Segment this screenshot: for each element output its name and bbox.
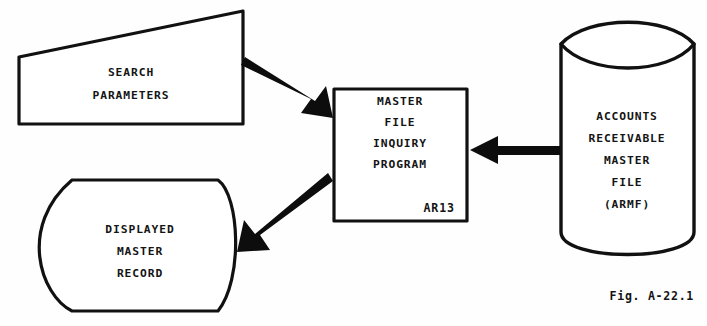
master-file-label-line2: RECEIVABLE xyxy=(588,132,665,145)
search-parameters-label-line1: SEARCH xyxy=(108,66,154,79)
figure-caption: Fig. A-22.1 xyxy=(610,289,694,303)
displayed-record-label-line1: DISPLAYED xyxy=(105,223,174,236)
node-inquiry-program[interactable]: MASTER FILE INQUIRY PROGRAM AR13 xyxy=(334,89,467,221)
flowchart-canvas: SEARCH PARAMETERS MASTER FILE INQUIRY PR… xyxy=(0,0,707,326)
node-master-file[interactable]: ACCOUNTS RECEIVABLE MASTER FILE (ARMF) xyxy=(561,22,694,254)
displayed-record-label-line2: MASTER xyxy=(117,245,163,258)
inquiry-program-label-line3: INQUIRY xyxy=(373,137,427,150)
masterfile-to-program-arrow xyxy=(470,136,560,164)
displayed-record-label-line3: RECORD xyxy=(117,267,163,280)
master-file-label-line1: ACCOUNTS xyxy=(596,110,658,123)
master-file-label-line5: (ARMF) xyxy=(604,198,650,211)
master-file-label-line4: FILE xyxy=(612,176,643,189)
search-to-program-arrow xyxy=(241,57,333,118)
master-file-label-line3: MASTER xyxy=(604,154,650,167)
inquiry-program-label-line4: PROGRAM xyxy=(373,158,427,171)
inquiry-program-label-line2: FILE xyxy=(385,116,416,129)
edge-program-to-display xyxy=(237,173,333,252)
search-parameters-label-line2: PARAMETERS xyxy=(92,89,169,102)
node-displayed-record[interactable]: DISPLAYED MASTER RECORD xyxy=(39,180,235,311)
program-to-display-arrow xyxy=(237,173,333,252)
inquiry-program-code: AR13 xyxy=(423,201,455,215)
edge-masterfile-to-program xyxy=(470,136,560,164)
node-search-parameters[interactable]: SEARCH PARAMETERS xyxy=(19,11,243,124)
edge-search-to-program xyxy=(241,57,333,118)
flowchart-figure: SEARCH PARAMETERS MASTER FILE INQUIRY PR… xyxy=(0,0,707,326)
inquiry-program-label-line1: MASTER xyxy=(377,95,423,108)
